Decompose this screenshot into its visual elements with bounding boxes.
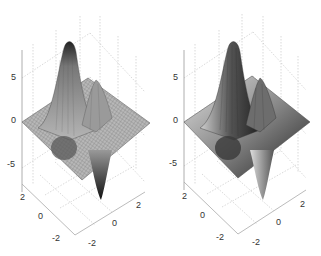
z-tick: -5 xyxy=(7,159,15,169)
surface-plot-left-canvas: 5 0 -5 2 0 -2 -2 0 2 xyxy=(0,0,160,256)
x-tick: 0 xyxy=(276,217,281,227)
surface-deep-trough xyxy=(88,150,112,200)
z-tick: 5 xyxy=(173,72,178,82)
z-tick: 0 xyxy=(11,115,16,125)
y-tick: -2 xyxy=(216,232,224,242)
surface-plot-right: 5 0 -5 2 0 -2 -2 0 2 xyxy=(160,0,320,256)
y-tick: 0 xyxy=(38,211,43,221)
surface-plot-left: 5 0 -5 2 0 -2 -2 0 2 xyxy=(0,0,160,256)
y-tick: 2 xyxy=(182,191,187,201)
surface-plot-right-canvas: 5 0 -5 2 0 -2 -2 0 2 xyxy=(160,0,321,256)
y-tick: 0 xyxy=(200,210,205,220)
x-tick: 2 xyxy=(136,200,141,210)
x-tick: -2 xyxy=(88,238,96,248)
x-tick: 2 xyxy=(300,199,305,209)
z-tick: -5 xyxy=(169,158,177,168)
floor-edges xyxy=(22,184,145,235)
x-tick: 0 xyxy=(112,218,117,228)
z-tick: 5 xyxy=(11,72,16,82)
x-tick: -2 xyxy=(252,237,260,247)
surface-trough xyxy=(215,136,241,160)
surface-deep-trough xyxy=(250,150,274,200)
z-tick: 0 xyxy=(173,115,178,125)
surface-trough xyxy=(51,136,77,160)
y-tick: 2 xyxy=(20,192,25,202)
floor-edges xyxy=(184,182,306,234)
y-tick: -2 xyxy=(52,233,60,243)
